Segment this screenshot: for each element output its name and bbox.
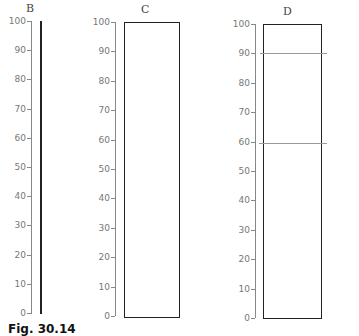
tick-mark <box>27 138 31 139</box>
reference-line-90 <box>260 53 327 54</box>
box-d <box>263 24 322 319</box>
tick-label: 20 <box>6 250 26 260</box>
tick-mark <box>27 196 31 197</box>
tick-mark <box>27 109 31 110</box>
tick-label: 70 <box>6 104 26 114</box>
figure-caption: Fig. 30.14 <box>8 322 76 336</box>
tick-mark <box>251 24 255 25</box>
panel-label-b: B <box>26 2 34 15</box>
tick-label: 30 <box>230 225 250 235</box>
tick-mark <box>251 53 255 54</box>
tick-label: 80 <box>6 74 26 84</box>
tick-mark <box>27 313 31 314</box>
tick-label: 10 <box>90 282 110 292</box>
tick-label: 80 <box>230 78 250 88</box>
tick-mark <box>111 51 115 52</box>
tick-label: 100 <box>90 17 110 27</box>
tick-label: 20 <box>230 254 250 264</box>
tick-mark <box>27 79 31 80</box>
panel-label-c: C <box>141 3 149 16</box>
tick-mark <box>251 83 255 84</box>
tick-mark <box>111 169 115 170</box>
tick-label: 100 <box>6 16 26 26</box>
tick-mark <box>27 50 31 51</box>
tick-mark <box>27 21 31 22</box>
tick-mark <box>111 316 115 317</box>
tick-mark <box>251 142 255 143</box>
tick-label: 10 <box>230 284 250 294</box>
tick-mark <box>251 171 255 172</box>
tick-mark <box>251 259 255 260</box>
tick-label: 50 <box>230 166 250 176</box>
tick-label: 80 <box>90 76 110 86</box>
axis-c <box>115 22 116 316</box>
tick-label: 100 <box>230 19 250 29</box>
tick-mark <box>251 112 255 113</box>
tick-mark <box>111 228 115 229</box>
tick-mark <box>27 225 31 226</box>
tick-label: 90 <box>6 45 26 55</box>
tick-label: 10 <box>6 279 26 289</box>
tick-mark <box>111 22 115 23</box>
axis-d <box>255 24 256 318</box>
tick-label: 0 <box>6 308 26 318</box>
tick-mark <box>111 198 115 199</box>
tick-label: 60 <box>6 133 26 143</box>
tick-mark <box>111 257 115 258</box>
tick-mark <box>251 289 255 290</box>
caption-prefix: Fig. 30.14 <box>8 322 76 336</box>
panel-label-d: D <box>283 5 292 18</box>
axis-b <box>31 21 32 314</box>
tick-label: 0 <box>90 311 110 321</box>
tick-label: 30 <box>6 220 26 230</box>
bar-line-b <box>40 21 42 314</box>
tick-mark <box>27 167 31 168</box>
tick-label: 40 <box>90 193 110 203</box>
tick-label: 0 <box>230 313 250 323</box>
tick-label: 40 <box>6 191 26 201</box>
tick-label: 70 <box>230 107 250 117</box>
tick-label: 40 <box>230 195 250 205</box>
tick-mark <box>111 287 115 288</box>
tick-label: 70 <box>90 105 110 115</box>
tick-mark <box>111 110 115 111</box>
tick-label: 90 <box>230 48 250 58</box>
tick-label: 60 <box>230 137 250 147</box>
reference-line-60 <box>259 143 327 144</box>
tick-mark <box>251 230 255 231</box>
tick-mark <box>27 255 31 256</box>
tick-label: 50 <box>90 164 110 174</box>
tick-mark <box>111 140 115 141</box>
box-c <box>124 22 180 318</box>
tick-label: 50 <box>6 162 26 172</box>
tick-mark <box>27 284 31 285</box>
tick-mark <box>251 200 255 201</box>
tick-label: 20 <box>90 252 110 262</box>
tick-label: 60 <box>90 135 110 145</box>
tick-label: 90 <box>90 46 110 56</box>
tick-mark <box>251 318 255 319</box>
tick-mark <box>111 81 115 82</box>
tick-label: 30 <box>90 223 110 233</box>
